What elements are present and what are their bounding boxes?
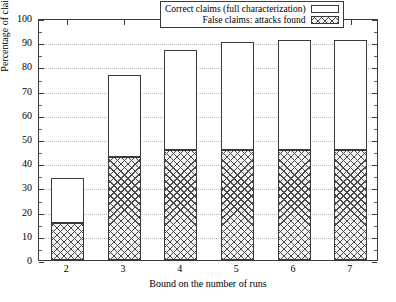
y-axis-tick-label: 40	[2, 159, 32, 169]
y-axis-minor-tick	[374, 153, 377, 154]
y-axis-tick-label: 50	[2, 135, 32, 145]
y-axis-tick	[39, 214, 44, 215]
y-axis-minor-tick	[39, 202, 42, 203]
y-axis-minor-tick	[39, 153, 42, 154]
bar-segment-false-claims	[108, 157, 141, 260]
y-axis-minor-tick	[39, 105, 42, 106]
x-axis-title: Bound on the number of runs	[38, 278, 378, 289]
y-axis-minor-tick	[39, 250, 42, 251]
y-axis-tick	[372, 189, 377, 190]
y-axis-minor-tick	[39, 129, 42, 130]
y-axis-tick	[372, 214, 377, 215]
bar-group	[164, 18, 197, 260]
y-axis-minor-tick	[39, 81, 42, 82]
x-axis-tick-label: 6	[273, 264, 313, 274]
y-axis-minor-tick	[39, 177, 42, 178]
y-axis-tick	[372, 44, 377, 45]
bar-group	[278, 18, 311, 260]
y-axis-tick	[372, 20, 377, 21]
y-axis-tick-label: 30	[2, 183, 32, 193]
gridline	[39, 214, 377, 215]
y-axis-tick	[372, 262, 377, 263]
legend-label-false-claims: False claims: attacks found	[202, 15, 305, 25]
y-axis-tick-label: 70	[2, 87, 32, 97]
y-axis-minor-tick	[374, 177, 377, 178]
y-axis-tick-label: 100	[2, 14, 32, 24]
y-axis-tick	[39, 93, 44, 94]
bar-segment-correct-claims	[278, 40, 311, 150]
y-axis-minor-tick	[374, 56, 377, 57]
y-axis-tick-label: 60	[2, 111, 32, 121]
y-axis-tick-label: 90	[2, 38, 32, 48]
y-axis-tick	[39, 141, 44, 142]
legend-entry-false-claims: False claims: attacks found	[165, 15, 339, 25]
bar-segment-correct-claims	[108, 75, 141, 157]
y-axis-tick	[372, 141, 377, 142]
y-axis-tick	[39, 44, 44, 45]
y-axis-tick	[372, 93, 377, 94]
bar-segment-correct-claims	[164, 50, 197, 150]
y-axis-minor-tick	[374, 226, 377, 227]
bar-group	[51, 18, 84, 260]
gridline	[39, 93, 377, 94]
x-axis-tick-label: 5	[216, 264, 256, 274]
y-axis-tick-label: 0	[2, 256, 32, 266]
gridline	[39, 165, 377, 166]
legend-label-correct-claims: Correct claims (full characterization)	[165, 4, 306, 14]
bar-group	[221, 18, 254, 260]
y-axis-tick	[39, 165, 44, 166]
y-axis-tick	[39, 68, 44, 69]
gridline	[39, 44, 377, 45]
y-axis-minor-tick	[374, 250, 377, 251]
bar-segment-false-claims	[334, 150, 367, 260]
y-axis-tick	[39, 262, 44, 263]
x-axis-tick-label: 3	[103, 264, 143, 274]
x-axis-tick-label: 4	[160, 264, 200, 274]
bar-group	[108, 18, 141, 260]
legend-swatch-correct-claims	[311, 5, 339, 13]
gridline	[39, 238, 377, 239]
y-axis-minor-tick	[374, 105, 377, 106]
y-axis-tick	[39, 189, 44, 190]
y-axis-tick	[372, 165, 377, 166]
y-axis-tick-label: 80	[2, 62, 32, 72]
gridline	[39, 117, 377, 118]
y-axis-tick	[372, 117, 377, 118]
legend-swatch-false-claims	[311, 16, 339, 24]
y-axis-tick	[39, 238, 44, 239]
bar-group	[334, 18, 367, 260]
bar-segment-false-claims	[164, 150, 197, 260]
gridline	[39, 68, 377, 69]
bar-segment-false-claims	[221, 150, 254, 260]
y-axis-tick	[39, 117, 44, 118]
bar-segment-correct-claims	[51, 178, 84, 223]
y-axis-minor-tick	[374, 129, 377, 130]
chart-legend: Correct claims (full characterization) F…	[160, 1, 344, 28]
y-axis-tick	[372, 68, 377, 69]
y-axis-tick	[39, 20, 44, 21]
bar-segment-false-claims	[278, 150, 311, 260]
y-axis-minor-tick	[374, 81, 377, 82]
legend-entry-correct-claims: Correct claims (full characterization)	[165, 4, 339, 14]
gridline	[39, 189, 377, 190]
y-axis-tick	[372, 238, 377, 239]
plot-area	[38, 19, 378, 261]
gridline	[39, 141, 377, 142]
y-axis-tick-label: 20	[2, 208, 32, 218]
y-axis-minor-tick	[374, 32, 377, 33]
y-axis-minor-tick	[39, 226, 42, 227]
x-axis-tick-label: 2	[46, 264, 86, 274]
x-axis-tick-label: 7	[330, 264, 370, 274]
bar-segment-false-claims	[51, 223, 84, 261]
bar-segment-correct-claims	[221, 42, 254, 149]
y-axis-minor-tick	[39, 56, 42, 57]
y-axis-minor-tick	[39, 32, 42, 33]
y-axis-tick-label: 10	[2, 232, 32, 242]
stacked-bar-chart: Percentage of claims 0102030405060708090…	[0, 0, 396, 302]
bar-segment-correct-claims	[334, 40, 367, 150]
y-axis-minor-tick	[374, 202, 377, 203]
